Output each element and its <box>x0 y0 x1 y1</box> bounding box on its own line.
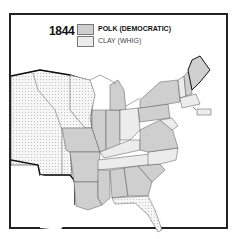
state-arkansas <box>70 152 100 182</box>
territory-texas <box>40 175 74 230</box>
legend-label-polk: POLK (DEMOCRATIC) <box>98 25 171 32</box>
state-ohio <box>120 108 140 140</box>
legend-label-clay: CLAY (WHIG) <box>98 37 141 44</box>
state-new-york <box>140 80 180 108</box>
legend-swatch-clay <box>77 36 94 47</box>
rhode-island-callout <box>197 109 211 115</box>
state-mississippi <box>98 170 110 205</box>
us-map <box>0 0 237 239</box>
state-indiana <box>106 110 120 150</box>
state-michigan <box>110 80 126 110</box>
map-year: 1844 <box>49 24 75 38</box>
territory-florida <box>112 196 162 232</box>
state-maine <box>188 56 210 90</box>
legend-swatch-polk <box>77 24 94 35</box>
